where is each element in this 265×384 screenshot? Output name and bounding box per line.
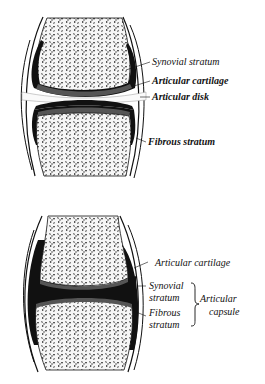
joint-diagrams — [0, 0, 265, 384]
label-articular-disk: Articular disk — [152, 92, 209, 102]
label-articular-cartilage-bottom: Articular cartilage — [155, 258, 230, 268]
label-fibrous-stratum-top: Fibrous stratum — [148, 137, 215, 147]
label-capsule: capsule — [209, 307, 240, 317]
top-joint — [21, 17, 150, 178]
label-synovial-stratum: stratum — [149, 293, 180, 303]
label-articular-cartilage-top: Articular cartilage — [152, 76, 228, 86]
label-articular: Articular — [200, 294, 237, 304]
label-synovial-stratum-top: Synovial stratum — [152, 57, 220, 67]
label-synovial: Synovial — [149, 281, 183, 291]
label-fibrous-stratum: stratum — [149, 320, 180, 330]
brace-icon — [191, 283, 199, 326]
label-fibrous: Fibrous — [149, 308, 180, 318]
